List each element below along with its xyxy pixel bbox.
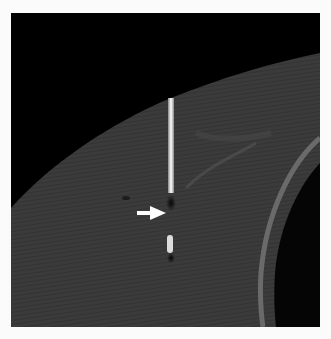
needle-artifact	[168, 98, 174, 193]
ct-scan-image	[11, 13, 320, 327]
ct-scan-graphic	[11, 13, 320, 327]
soft-tissue	[11, 53, 320, 327]
